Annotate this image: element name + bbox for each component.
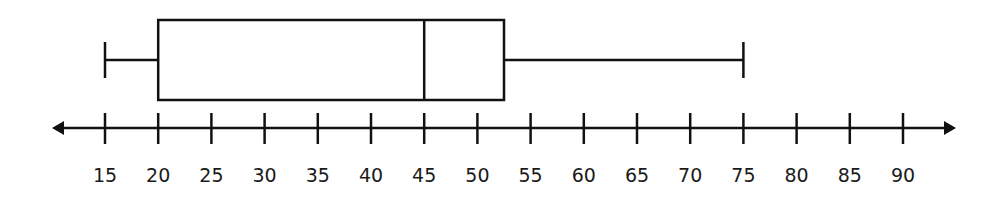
tick-label: 70: [678, 164, 702, 186]
tick-label: 30: [253, 164, 277, 186]
tick-label: 40: [359, 164, 383, 186]
tick-label: 85: [838, 164, 862, 186]
right-arrow-icon: [944, 121, 956, 135]
box-and-whisker: [105, 20, 743, 100]
tick-label: 60: [572, 164, 596, 186]
number-line-axis: [52, 113, 956, 144]
tick-labels: 15202530354045505560657075808590: [93, 164, 915, 186]
tick-label: 55: [519, 164, 543, 186]
tick-label: 20: [146, 164, 170, 186]
tick-label: 15: [93, 164, 117, 186]
iqr-box: [158, 20, 504, 100]
tick-label: 90: [891, 164, 915, 186]
tick-label: 50: [465, 164, 489, 186]
tick-label: 65: [625, 164, 649, 186]
tick-label: 35: [306, 164, 330, 186]
tick-label: 45: [412, 164, 436, 186]
tick-label: 80: [785, 164, 809, 186]
box-plot-chart: 15202530354045505560657075808590: [0, 0, 1008, 198]
tick-label: 75: [731, 164, 755, 186]
left-arrow-icon: [52, 121, 64, 135]
tick-label: 25: [199, 164, 223, 186]
